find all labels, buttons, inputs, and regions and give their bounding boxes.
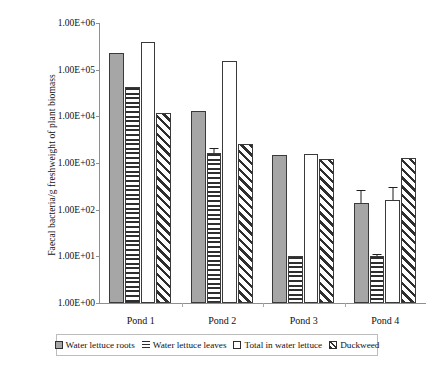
y-tick-mark [96,303,100,304]
y-tick-label: 1.00E+01 [58,251,95,261]
y-tick-mark [96,23,100,24]
legend-label-roots: Water lettuce roots [66,340,135,350]
legend-label-leaves: Water lettuce leaves [153,340,227,350]
chart-legend: Water lettuce roots Water lettuce leaves… [56,334,378,356]
x-axis-label: Pond 2 [208,315,236,326]
x-axis-label: Pond 3 [290,315,318,326]
bar-duckweed-pond3 [319,159,334,303]
bar-total-pond2 [222,61,237,303]
x-axis-separator [345,303,346,307]
chart-figure: Faecal bacteria/g freshweight of plant b… [0,0,434,377]
y-tick-mark [96,210,100,211]
y-tick-label: 1.00E+04 [58,111,95,121]
error-cap-roots-pond4 [357,190,366,191]
bar-leaves-pond1 [125,87,140,303]
y-tick-label: 1.00E+00 [58,298,95,308]
y-tick-mark [96,116,100,117]
bar-leaves-pond4 [370,256,385,303]
error-cap-leaves-pond2 [209,148,218,149]
legend-item-duckweed[interactable]: Duckweed [329,340,379,350]
y-tick-mark [96,256,100,257]
legend-label-duckweed: Duckweed [340,340,379,350]
plot-area: 1.00E+061.00E+051.00E+041.00E+031.00E+02… [99,23,426,304]
bar-leaves-pond2 [207,153,222,303]
x-axis-separator [263,303,264,307]
legend-item-roots[interactable]: Water lettuce roots [55,340,135,350]
x-axis-separator [182,303,183,307]
y-tick-label: 1.00E+06 [58,18,95,28]
bar-total-pond4 [385,200,400,303]
x-axis-label: Pond 4 [371,315,399,326]
bar-roots-pond2 [191,111,206,303]
bar-roots-pond4 [354,203,369,303]
y-axis-title: Faecal bacteria/g freshweight of plant b… [47,25,57,305]
legend-swatch-duckweed [329,341,337,349]
error-bar-roots-pond4 [361,190,362,203]
y-tick-mark [96,163,100,164]
bar-duckweed-pond2 [238,144,253,303]
legend-label-total: Total in water lettuce [244,340,322,350]
legend-swatch-total [233,341,241,349]
error-bar-total-pond4 [392,187,393,200]
bar-roots-pond3 [272,155,287,303]
legend-item-total[interactable]: Total in water lettuce [233,340,322,350]
bar-total-pond3 [304,154,319,303]
y-tick-label: 1.00E+03 [58,158,95,168]
bar-leaves-pond3 [288,256,303,303]
y-tick-label: 1.00E+02 [58,205,95,215]
error-cap-leaves-pond4 [372,254,381,255]
legend-swatch-leaves [142,341,150,349]
y-tick-mark [96,70,100,71]
bar-duckweed-pond4 [401,158,416,303]
bar-roots-pond1 [109,53,124,303]
legend-item-leaves[interactable]: Water lettuce leaves [142,340,227,350]
bar-duckweed-pond1 [156,113,171,303]
legend-swatch-roots [55,341,63,349]
bar-total-pond1 [141,42,156,303]
error-cap-total-pond4 [388,187,397,188]
x-axis-label: Pond 1 [127,315,155,326]
y-tick-label: 1.00E+05 [58,65,95,75]
